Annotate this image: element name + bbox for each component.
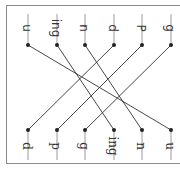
top-dot xyxy=(55,43,59,47)
bottom-label: ing xyxy=(106,136,120,156)
bottom-label: d xyxy=(20,142,34,150)
top-label: n xyxy=(77,24,91,32)
connection-line xyxy=(57,45,142,130)
bottom-label: n xyxy=(134,142,148,150)
top-label: d xyxy=(106,24,120,32)
connection-lines xyxy=(28,45,171,130)
top-dot xyxy=(169,43,173,47)
bottom-dot xyxy=(83,128,87,132)
bottom-dot xyxy=(26,128,30,132)
top-label: P xyxy=(134,24,148,31)
bottom-dot xyxy=(55,128,59,132)
top-label: u xyxy=(20,24,34,32)
bottom-dot xyxy=(169,128,173,132)
bottom-label: p xyxy=(49,142,63,150)
connection-line xyxy=(28,45,114,130)
connection-line xyxy=(85,45,171,130)
top-label: g xyxy=(163,24,177,32)
bottom-dot xyxy=(140,128,144,132)
top-dot xyxy=(112,43,116,47)
matching-worksheet: uingndPgdpgingnu xyxy=(0,0,180,184)
bottom-label: u xyxy=(163,142,177,150)
top-dot xyxy=(26,43,30,47)
top-label: ing xyxy=(49,19,63,38)
matching-diagram: uingndPgdpgingnu xyxy=(0,0,180,184)
bottom-dot xyxy=(112,128,116,132)
top-dot xyxy=(83,43,87,47)
bottom-label: g xyxy=(77,142,91,150)
connection-line xyxy=(85,45,142,130)
top-dot xyxy=(140,43,144,47)
connection-line xyxy=(57,45,114,130)
